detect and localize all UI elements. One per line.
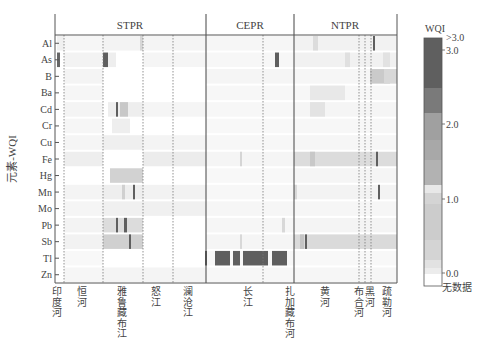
river-label: 河	[382, 307, 392, 318]
river-label: 度	[52, 296, 62, 308]
heatmap-cell	[110, 168, 143, 183]
river-label: 扎	[285, 285, 295, 297]
heatmap-cell	[206, 168, 294, 183]
heatmap-cell	[294, 185, 397, 200]
heatmap-cell	[294, 234, 397, 249]
heatmap-cell	[310, 152, 315, 167]
river-label: 藏	[285, 307, 295, 318]
colorbar-tick-label: 0.0	[446, 268, 459, 279]
river-label: 河	[365, 297, 375, 308]
river-label: 布	[354, 286, 364, 297]
heatmap-cell	[206, 53, 294, 68]
heatmap-cell	[103, 218, 143, 233]
y-tick-label: Mn	[38, 187, 52, 198]
y-tick-label: B	[45, 71, 52, 82]
heatmap-cell	[294, 86, 397, 101]
x-axis-river-labels: 印度河恒河雅鲁藏布江怒江澜沧江长江扎加藏布河黄河布合河黑河疏勒河	[52, 285, 392, 339]
river-label: 河	[77, 297, 87, 308]
river-label: 布	[117, 318, 127, 329]
heatmap-cell	[120, 102, 128, 117]
colorbar-segment	[424, 240, 442, 260]
heatmap-cell	[116, 102, 118, 117]
heatmap-cell	[103, 201, 206, 216]
heatmap-cell	[64, 185, 103, 200]
heatmap-cell	[122, 185, 125, 200]
heatmap-cell	[305, 234, 307, 249]
y-tick-label: Mo	[38, 203, 52, 214]
heatmap-cell	[103, 234, 143, 249]
river-label: 河	[52, 307, 62, 318]
river-label: 江	[183, 307, 193, 318]
heatmap-cell	[64, 102, 103, 117]
heatmap-cell	[64, 36, 103, 51]
y-tick-label: Tl	[43, 253, 52, 264]
river-label: 澜	[183, 286, 193, 297]
region-label-cepr: CEPR	[236, 19, 264, 31]
heatmap-cell	[108, 53, 116, 68]
heatmap-cell	[376, 152, 378, 167]
heatmap-cell	[103, 36, 143, 51]
region-label-ntpr: NTPR	[331, 19, 360, 31]
heatmap-cell	[112, 119, 130, 134]
heatmap-cell	[272, 251, 287, 266]
heatmap-cell	[143, 152, 206, 167]
river-label: 鲁	[117, 296, 127, 308]
heatmap-cell	[294, 218, 397, 233]
heatmap-cell	[206, 234, 294, 249]
river-label: 怒	[151, 285, 161, 297]
heatmap-cell	[129, 234, 131, 249]
heatmap-cell	[240, 152, 242, 167]
heatmap-cell	[64, 267, 103, 282]
colorbar-segment	[424, 274, 442, 286]
heatmap-cell	[64, 69, 103, 84]
river-label: 合	[354, 296, 364, 308]
river-label: 沧	[183, 296, 193, 308]
heatmap-cell	[275, 53, 279, 68]
heatmap-cell	[206, 119, 294, 134]
y-tick-label: Fe	[42, 154, 53, 165]
heatmap-cell	[64, 234, 103, 249]
heatmap-cell	[143, 185, 206, 200]
heatmap-chart: STPR CEPR NTPR AlAsBBaCdCrCuFeHgMnMoPbSb…	[0, 0, 490, 350]
heatmap-cell	[373, 36, 375, 51]
heatmap-cell	[103, 267, 206, 282]
colorbar-tick-label: 2.0	[446, 119, 459, 130]
heatmap-cell	[116, 218, 118, 233]
river-label: 长	[243, 286, 253, 297]
y-tick-label: Pb	[41, 220, 52, 231]
colorbar-segment	[424, 204, 442, 240]
river-label: 江	[117, 328, 127, 339]
heatmap-cell	[294, 135, 397, 150]
colorbar-tick-label: 1.0	[446, 194, 459, 205]
river-label: 雅	[117, 285, 127, 297]
heatmap-cell	[294, 267, 397, 282]
colorbar-title: WQI	[425, 23, 445, 34]
river-label: 河	[354, 307, 364, 318]
heatmap-cell	[206, 201, 294, 216]
colorbar-segment	[424, 185, 442, 193]
heatmap-cell	[300, 234, 304, 249]
y-tick-label: Zn	[41, 269, 52, 280]
y-tick-label: Hg	[40, 170, 52, 181]
y-axis-ticks: AlAsBBaCdCrCuFeHgMnMoPbSbTlZn	[38, 38, 59, 280]
y-tick-label: Cd	[40, 104, 52, 115]
heatmap-cell	[64, 201, 103, 216]
heatmap-cell	[233, 251, 240, 266]
heatmap-cell	[143, 53, 206, 68]
colorbar-segment	[424, 38, 442, 88]
colorbar-segment	[424, 88, 442, 113]
river-label: 黄	[320, 285, 330, 297]
heatmap-cell	[215, 251, 230, 266]
river-label: 河	[320, 297, 330, 308]
heatmap-cell	[64, 86, 103, 101]
heatmap-cell	[310, 86, 345, 101]
heatmap-cell	[206, 69, 294, 84]
heatmap-cell	[282, 218, 285, 233]
river-label: 勒	[382, 296, 392, 308]
heatmap-cell	[240, 234, 242, 249]
heatmap-cell	[133, 185, 135, 200]
colorbar-legend: >3.03.02.01.00.0无数据	[424, 32, 472, 293]
river-label: 布	[285, 318, 295, 329]
heatmap-cell	[294, 152, 397, 167]
heatmap-cell	[313, 36, 318, 51]
